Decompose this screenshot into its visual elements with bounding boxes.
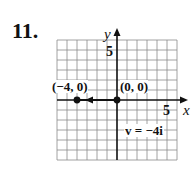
y-tick-label-5: 5 (106, 45, 113, 59)
axes (57, 32, 184, 160)
y-axis-arrow-icon (114, 28, 121, 36)
y-axis-label: y (104, 27, 111, 42)
vector-arrowhead-icon (85, 97, 93, 104)
point-label-neg4-0: (−4, 0) (52, 80, 88, 93)
point-label-origin: (0, 0) (120, 80, 148, 93)
x-axis-label: x (183, 103, 190, 118)
vector-label: v = −4i (124, 124, 164, 137)
coordinate-grid (0, 0, 195, 179)
point-origin (114, 97, 121, 104)
x-tick-label-5: 5 (163, 104, 170, 118)
point-neg4-0 (74, 97, 81, 104)
